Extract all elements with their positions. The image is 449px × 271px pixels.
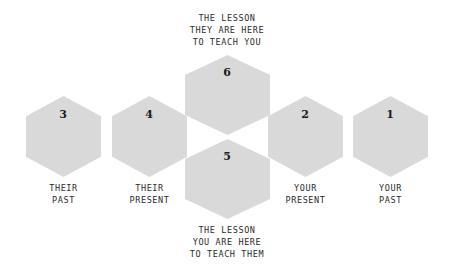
hexagon-6-number: 6 [217, 67, 237, 78]
hexagon-2-label-line-1: YOUR [268, 182, 343, 194]
caption-bottom: THE LESSON YOU ARE HERE TO TEACH THEM [152, 224, 302, 260]
caption-top-line-1: THE LESSON [152, 12, 302, 24]
caption-top: THE LESSON THEY ARE HERE TO TEACH YOU [152, 12, 302, 48]
caption-bottom-line-3: TO TEACH THEM [152, 248, 302, 260]
caption-top-line-2: THEY ARE HERE [152, 24, 302, 36]
hexagon-4-label: THEIR PRESENT [112, 182, 187, 206]
caption-bottom-line-1: THE LESSON [152, 224, 302, 236]
hexagon-1-label: YOUR PAST [353, 182, 428, 206]
caption-top-line-3: TO TEACH YOU [152, 36, 302, 48]
hexagon-2-label-line-2: PRESENT [268, 194, 343, 206]
hexagon-4-number: 4 [139, 109, 159, 120]
hexagon-diagram: THE LESSON THEY ARE HERE TO TEACH YOU 3 … [0, 0, 449, 271]
hexagon-4-label-line-2: PRESENT [112, 194, 187, 206]
hexagon-1-number: 1 [380, 109, 400, 120]
hexagon-4-label-line-1: THEIR [112, 182, 187, 194]
hexagon-1-label-line-1: YOUR [353, 182, 428, 194]
hexagon-2-number: 2 [295, 109, 315, 120]
hexagon-2-label: YOUR PRESENT [268, 182, 343, 206]
hexagon-3-label-line-2: PAST [26, 194, 101, 206]
caption-bottom-line-2: YOU ARE HERE [152, 236, 302, 248]
hexagon-3-label-line-1: THEIR [26, 182, 101, 194]
hexagon-3-number: 3 [53, 109, 73, 120]
hexagon-1-label-line-2: PAST [353, 194, 428, 206]
hexagon-3-label: THEIR PAST [26, 182, 101, 206]
hexagon-5-number: 5 [217, 151, 237, 162]
